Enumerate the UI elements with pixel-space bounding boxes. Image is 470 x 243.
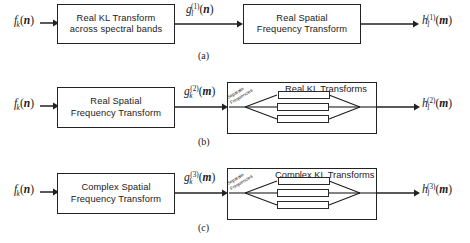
process-box-c1-line1: Complex Spatial — [71, 182, 161, 193]
output-label-a-arg: m — [439, 14, 448, 26]
caption-b: (b) — [198, 136, 210, 147]
process-box-a2-line1: Real Spatial — [257, 13, 347, 24]
output-label-c: hl(3)(m) — [422, 183, 452, 198]
arrow-mid-b — [175, 102, 229, 112]
process-box-b1-line1: Real Spatial — [71, 96, 161, 107]
arrow-output-a — [361, 19, 420, 29]
transform-branch-c-2[interactable] — [277, 189, 329, 197]
process-box-a1[interactable]: Real KL Transform across spectral bands — [57, 4, 175, 44]
mid-label-c-sup: (3) — [190, 171, 198, 179]
process-box-a1-line1: Real KL Transform — [70, 13, 163, 24]
input-label-b: fk(n) — [14, 97, 34, 112]
arrow-output-b — [377, 102, 421, 112]
diagram-row-a: fk(n) Real KL Transform across spectral … — [0, 0, 470, 80]
mid-label-c: gk(3)(m) — [184, 171, 215, 186]
process-box-c1[interactable]: Complex Spatial Frequency Transform — [57, 173, 175, 214]
mid-label-b-sup: (2) — [190, 85, 198, 93]
transform-branch-b-3[interactable] — [277, 115, 329, 123]
transform-branch-c-1[interactable] — [278, 177, 330, 185]
diagram-row-c: fk(n) Complex Spatial Frequency Transfor… — [0, 158, 470, 243]
process-box-b1-line2: Frequency Transform — [71, 108, 161, 119]
process-box-a1-line2: across spectral bands — [70, 24, 163, 35]
process-box-a2-line2: Frequency Transform — [257, 24, 347, 35]
caption-c: (c) — [198, 222, 209, 233]
input-label-a: fk(n) — [14, 14, 34, 29]
output-label-b: hl(2)(m) — [422, 97, 452, 112]
process-box-b1[interactable]: Real Spatial Frequency Transform — [57, 87, 175, 128]
block-diagram-figure: fk(n) Real KL Transform across spectral … — [0, 0, 470, 243]
transform-branch-b-2[interactable] — [277, 103, 329, 111]
caption-a: (a) — [198, 50, 209, 61]
mid-label-a: gl(1)(n) — [186, 3, 214, 18]
input-label-c: fk(n) — [14, 183, 34, 198]
transform-branch-c-3[interactable] — [277, 201, 329, 209]
process-box-c1-line2: Frequency Transform — [71, 194, 161, 205]
output-label-b-arg: m — [439, 97, 448, 109]
process-box-a2[interactable]: Real Spatial Frequency Transform — [243, 4, 361, 44]
diagram-row-b: fk(n) Real Spatial Frequency Transform g… — [0, 80, 470, 160]
mid-label-b: gk(2)(m) — [184, 85, 215, 100]
output-label-a: hl(1)(m) — [422, 14, 452, 29]
arrow-mid-a — [175, 19, 244, 29]
arrow-mid-c — [175, 188, 229, 198]
output-label-c-arg: m — [439, 183, 448, 195]
arrow-output-c — [377, 188, 421, 198]
transform-branch-b-1[interactable] — [278, 91, 330, 99]
